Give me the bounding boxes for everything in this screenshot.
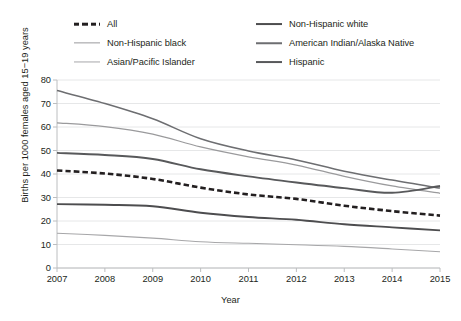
x-tick-label: 2014 <box>370 274 414 284</box>
x-tick-label: 2011 <box>227 274 271 284</box>
plot-svg <box>0 0 461 321</box>
y-tick-label: 0 <box>21 263 51 273</box>
y-tick-label: 60 <box>21 122 51 132</box>
series-line <box>57 123 440 194</box>
x-tick-label: 2010 <box>179 274 223 284</box>
y-tick-label: 50 <box>21 146 51 156</box>
x-tick-label: 2007 <box>35 274 79 284</box>
y-tick-label: 70 <box>21 99 51 109</box>
x-tick-label: 2008 <box>83 274 127 284</box>
chart-figure: AllNon-Hispanic whiteNon-Hispanic blackA… <box>0 0 461 321</box>
x-tick-label: 2015 <box>418 274 461 284</box>
series-line <box>57 204 440 230</box>
y-tick-label: 20 <box>21 216 51 226</box>
y-tick-label: 40 <box>21 169 51 179</box>
series-line <box>57 153 440 193</box>
x-tick-label: 2012 <box>274 274 318 284</box>
series-line <box>57 91 440 189</box>
y-tick-label: 80 <box>21 75 51 85</box>
y-tick-label: 10 <box>21 240 51 250</box>
y-axis-title: Births per 1000 females aged 15−19 years <box>20 15 30 215</box>
plot-area: Births per 1000 females aged 15−19 years… <box>0 0 461 321</box>
y-tick-label: 30 <box>21 193 51 203</box>
series-line <box>57 233 440 252</box>
x-tick-label: 2013 <box>322 274 366 284</box>
x-tick-label: 2009 <box>131 274 175 284</box>
x-axis-title: Year <box>0 295 461 305</box>
